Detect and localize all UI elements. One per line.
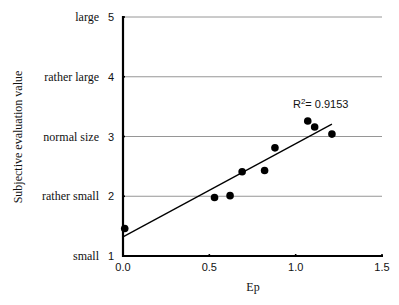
y-tick-label: 3: [108, 131, 114, 143]
data-point: [226, 192, 234, 200]
data-point: [238, 168, 246, 176]
y-tick-label: 5: [108, 11, 114, 23]
y-category-label: rather large: [44, 70, 99, 84]
data-points: [121, 117, 336, 232]
data-point: [328, 130, 336, 138]
x-tick-label: 0.0: [115, 261, 130, 273]
y-category-label: normal size: [43, 130, 99, 144]
annotations: R2= 0.9153: [293, 97, 349, 110]
trendline-group: [123, 124, 332, 237]
scatter-chart: 1small2rather small3normal size4rather l…: [0, 0, 399, 305]
y-tick-label: 1: [108, 250, 114, 262]
x-tick-label: 0.5: [202, 261, 217, 273]
data-point: [211, 194, 219, 202]
data-point: [271, 144, 279, 152]
data-point: [121, 225, 129, 233]
y-tick-label: 2: [108, 190, 114, 202]
y-category-label: large: [75, 10, 99, 24]
data-point: [311, 123, 319, 131]
x-tick-label: 1.5: [374, 261, 389, 273]
x-tick-label: 1.0: [288, 261, 303, 273]
x-tick-labels: 0.00.51.01.5: [115, 261, 389, 273]
y-tick-labels: 1small2rather small3normal size4rather l…: [42, 10, 114, 263]
y-tick-label: 4: [108, 71, 114, 83]
data-point: [304, 117, 312, 125]
y-category-label: small: [73, 249, 100, 263]
y-category-label: rather small: [42, 189, 100, 203]
data-point: [261, 167, 269, 175]
x-axis-label: Ep: [246, 280, 259, 294]
y-axis-label: Subjective evaluation value: [11, 71, 25, 204]
regression-line: [123, 124, 332, 237]
r-squared-label: R2= 0.9153: [293, 97, 349, 110]
